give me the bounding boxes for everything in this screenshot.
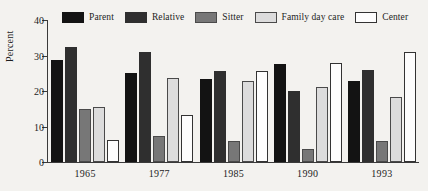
bar-center-1990[interactable] (330, 63, 342, 162)
bar-group-1993 (345, 20, 419, 162)
bar-family-day-care-1965[interactable] (93, 107, 105, 162)
bar-sitter-1965[interactable] (79, 109, 91, 162)
bar-center-1977[interactable] (181, 115, 193, 162)
bar-relative-1977[interactable] (139, 52, 151, 162)
y-axis-tick-label: 10 (34, 121, 44, 134)
bar-family-day-care-1990[interactable] (316, 87, 328, 162)
y-axis-title: Percent (4, 31, 15, 62)
bar-relative-1993[interactable] (362, 70, 374, 162)
x-axis-tick-labels: 19651977198519901993 (48, 168, 419, 179)
bar-center-1985[interactable] (256, 71, 268, 162)
x-axis-tick-label: 1990 (271, 168, 345, 179)
bar-sitter-1990[interactable] (302, 149, 314, 162)
y-axis-tick-label: 40 (34, 14, 44, 27)
y-axis-tick-label: 30 (34, 50, 44, 63)
bar-group-1977 (122, 20, 196, 162)
x-axis-tick-label: 1985 (196, 168, 270, 179)
x-axis-tick-label: 1993 (345, 168, 419, 179)
bar-family-day-care-1977[interactable] (167, 78, 179, 162)
bar-relative-1965[interactable] (65, 47, 77, 162)
bar-sitter-1985[interactable] (228, 141, 240, 162)
bar-family-day-care-1985[interactable] (242, 81, 254, 162)
bar-parent-1993[interactable] (348, 81, 360, 162)
bar-parent-1965[interactable] (51, 60, 63, 162)
x-axis-tick-label: 1965 (48, 168, 122, 179)
bar-group-1965 (48, 20, 122, 162)
bar-parent-1977[interactable] (125, 73, 137, 162)
grouped-bar-chart: ParentRelativeSitterFamily day careCente… (0, 0, 428, 191)
bar-center-1965[interactable] (107, 140, 119, 162)
bar-family-day-care-1993[interactable] (390, 97, 402, 162)
bar-sitter-1993[interactable] (376, 141, 388, 162)
x-axis-line (47, 162, 419, 163)
bar-parent-1985[interactable] (200, 79, 212, 162)
bar-group-1985 (196, 20, 270, 162)
plot-area: 010203040 (47, 20, 419, 163)
bar-relative-1990[interactable] (288, 91, 300, 162)
bar-relative-1985[interactable] (214, 71, 226, 162)
y-axis-tick-label: 20 (34, 85, 44, 98)
x-axis-tick-label: 1977 (122, 168, 196, 179)
bar-center-1993[interactable] (404, 52, 416, 162)
bar-sitter-1977[interactable] (153, 136, 165, 162)
bar-groups (48, 20, 419, 162)
bar-group-1990 (271, 20, 345, 162)
y-axis-tick-label: 0 (39, 156, 44, 169)
bar-parent-1990[interactable] (274, 64, 286, 162)
